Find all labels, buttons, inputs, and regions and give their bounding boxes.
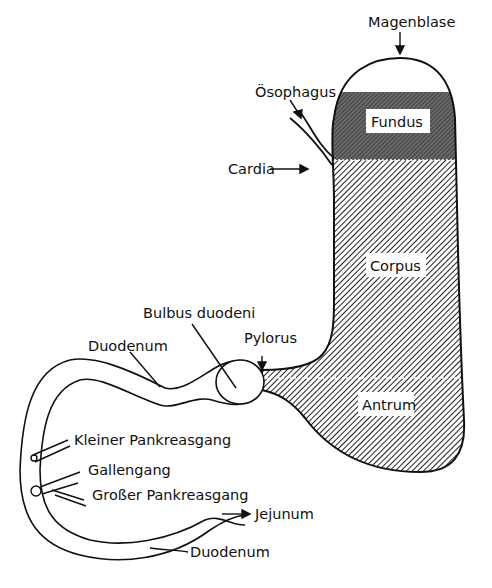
stomach-duodenum-diagram: Magenblase Ösophagus Cardia Fundus Corpu… bbox=[0, 0, 492, 588]
label-fundus: Fundus bbox=[371, 114, 423, 130]
label-cardia: Cardia bbox=[228, 161, 275, 177]
bulbus-duodeni bbox=[216, 360, 264, 404]
oesophagus-tube bbox=[290, 118, 332, 165]
label-bulbus-duodeni: Bulbus duodeni bbox=[143, 305, 255, 321]
label-gallengang: Gallengang bbox=[88, 462, 171, 478]
label-kleiner-pankreasgang: Kleiner Pankreasgang bbox=[74, 432, 231, 448]
label-magenblase: Magenblase bbox=[368, 14, 455, 30]
label-antrum: Antrum bbox=[362, 397, 416, 413]
label-duodenum-lower: Duodenum bbox=[190, 544, 270, 560]
label-jejunum: Jejunum bbox=[254, 506, 314, 522]
label-pylorus: Pylorus bbox=[244, 330, 297, 346]
label-grosser-pankreasgang: Großer Pankreasgang bbox=[92, 487, 248, 503]
label-oesophagus: Ösophagus bbox=[255, 83, 336, 100]
label-corpus: Corpus bbox=[370, 258, 421, 274]
label-duodenum-upper: Duodenum bbox=[88, 338, 168, 354]
